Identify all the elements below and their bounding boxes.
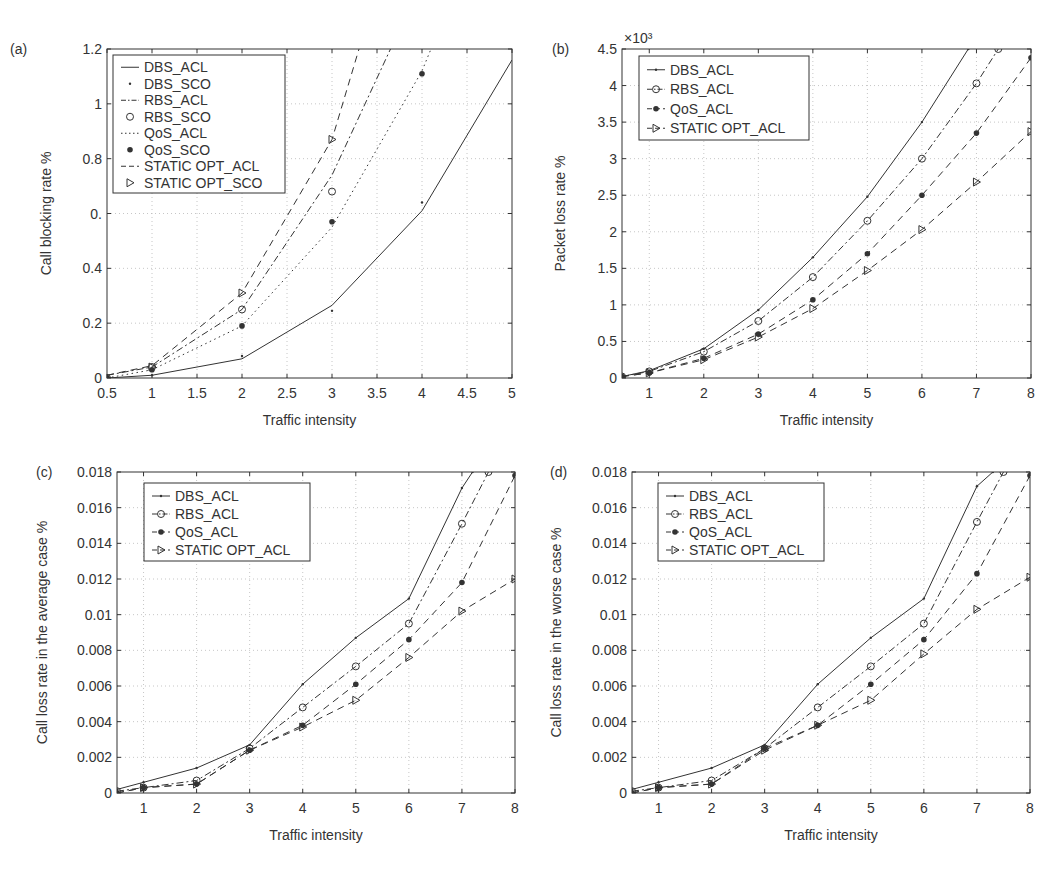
data-point	[812, 256, 814, 258]
x-tick-label: 1.5	[187, 385, 207, 401]
x-tick-label: 4	[299, 800, 307, 816]
x-tick-label: 7	[458, 800, 466, 816]
x-tick-label: 7	[973, 800, 981, 816]
y-tick-label: 0	[104, 785, 112, 801]
data-point	[195, 767, 197, 769]
chart-panel-c: 1234567800.0020.0040.0060.0080.010.0120.…	[34, 464, 519, 843]
x-tick-label: 3.5	[367, 385, 387, 401]
x-tick-label: 8	[511, 800, 519, 816]
legend-marker-icon	[127, 147, 133, 153]
x-axis-label: Traffic intensity	[269, 827, 362, 843]
data-point	[657, 781, 659, 783]
data-point	[757, 309, 759, 311]
data-point	[419, 71, 425, 77]
x-tick-label: 4	[809, 385, 817, 401]
x-tick-label: 3	[246, 800, 254, 816]
legend-marker-icon	[674, 495, 676, 497]
x-tick-label: 6	[920, 800, 928, 816]
y-tick-label: 0.008	[592, 642, 627, 658]
legend: DBS_ACLRBS_ACLQoS_ACLSTATIC OPT_ACL	[658, 483, 824, 561]
panel-label: (d)	[550, 464, 567, 480]
y-tick-label: 0	[609, 370, 617, 386]
panel-label: (b)	[552, 41, 569, 57]
legend-entry-label: QoS_ACL	[689, 524, 752, 540]
y-tick-label: 0.01	[600, 607, 627, 623]
x-tick-label: 6	[405, 800, 413, 816]
chart-panel-b: 1234567800.511.522.533.544.5×10³Traffic …	[552, 30, 1035, 428]
x-tick-label: 3	[328, 385, 336, 401]
data-point	[817, 683, 819, 685]
data-point	[408, 597, 410, 599]
data-point	[405, 620, 412, 627]
data-point	[967, 48, 969, 50]
data-point	[1027, 473, 1033, 479]
legend-entry-label: STATIC OPT_ACL	[689, 542, 805, 558]
x-tick-label: 0.5	[97, 385, 117, 401]
legend-entry-label: STATIC OPT_ACL	[670, 120, 786, 136]
legend-entry-label: DBS_ACL	[670, 62, 734, 78]
legend-entry-label: RBS_ACL	[175, 506, 239, 522]
legend: DBS_ACLRBS_ACLQoS_ACLSTATIC OPT_ACL	[144, 483, 310, 561]
data-point	[142, 781, 144, 783]
legend-entry-label: RBS_ACL	[689, 506, 753, 522]
y-tick-label: 0.016	[77, 500, 112, 516]
chart-panel-d: 1234567800.0020.0040.0060.0080.010.0120.…	[548, 464, 1034, 843]
legend-entry-label: DBS_ACL	[175, 488, 239, 504]
data-point	[406, 637, 412, 643]
y-exponent-label: ×10³	[624, 30, 653, 46]
y-tick-label: 0.	[90, 206, 102, 222]
data-point	[921, 637, 927, 643]
y-tick-label: 0	[94, 370, 102, 386]
data-point	[810, 297, 816, 303]
x-axis-label: Traffic intensity	[263, 412, 356, 428]
y-tick-label: 2	[609, 224, 617, 240]
x-tick-label: 2	[708, 800, 716, 816]
legend-entry-label: DBS_ACL	[689, 488, 753, 504]
y-tick-label: 0.01	[85, 607, 112, 623]
y-axis-label: Call blocking rate %	[38, 152, 54, 276]
legend-entry-label: RBS_ACL	[670, 81, 734, 97]
legend-entry-label: QoS_SCO	[144, 142, 210, 158]
x-tick-label: 4.5	[457, 385, 477, 401]
y-tick-label: 2.5	[598, 187, 618, 203]
y-tick-label: 0.004	[77, 714, 112, 730]
legend-entry-label: STATIC OPT_SCO	[144, 175, 263, 191]
data-point	[868, 681, 874, 687]
y-tick-label: 3	[609, 151, 617, 167]
x-tick-label: 2	[238, 385, 246, 401]
data-point	[459, 580, 465, 586]
x-tick-label: 5	[352, 800, 360, 816]
x-tick-label: 8	[1027, 385, 1035, 401]
x-tick-label: 1	[148, 385, 156, 401]
data-point	[992, 471, 994, 473]
x-tick-label: 8	[1026, 800, 1034, 816]
legend-marker-icon	[653, 106, 659, 112]
y-tick-label: 0.5	[598, 333, 618, 349]
data-point	[755, 317, 762, 324]
x-tick-label: 1	[655, 800, 663, 816]
data-point	[921, 121, 923, 123]
data-point	[241, 355, 243, 357]
legend-entry-label: RBS_SCO	[144, 109, 211, 125]
y-tick-label: 0.018	[77, 464, 112, 480]
data-point	[866, 195, 868, 197]
legend-marker-icon	[160, 495, 162, 497]
legend-marker-icon	[129, 83, 131, 85]
data-point	[239, 323, 245, 329]
data-point	[1028, 55, 1034, 61]
data-point	[329, 219, 335, 225]
figure: 0.511.522.533.544.5500.20.40.0.811.2Traf…	[0, 0, 1064, 879]
x-tick-label: 7	[973, 385, 981, 401]
data-point	[865, 251, 871, 257]
data-point	[355, 637, 357, 639]
y-tick-label: 0.8	[83, 151, 103, 167]
y-tick-label: 0.002	[592, 749, 627, 765]
x-tick-label: 3	[754, 385, 762, 401]
x-tick-label: 4	[814, 800, 822, 816]
y-tick-label: 1.5	[598, 260, 618, 276]
series-line-static-opt-acl	[632, 577, 1030, 793]
data-point	[151, 374, 153, 376]
legend-marker-icon	[655, 69, 657, 71]
legend-entry-label: QoS_ACL	[670, 101, 733, 117]
data-point	[458, 520, 465, 527]
